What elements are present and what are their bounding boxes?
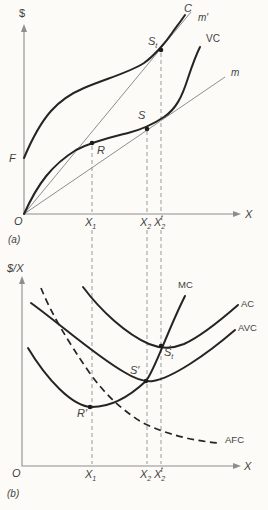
- curve-vc-label: VC: [206, 33, 220, 44]
- point-r-label: R: [97, 144, 105, 156]
- point-s-dot: [145, 127, 150, 132]
- cost-curves-figure: $ C m′ VC m St S R F O X X1 X2 X2t (a): [0, 0, 268, 510]
- panel-b-label: (b): [7, 488, 19, 499]
- tick-x1-a: X1: [84, 216, 96, 230]
- curve-mc-label: MC: [178, 279, 193, 290]
- point-s-label: S: [138, 109, 146, 121]
- curve-total-cost: [24, 15, 185, 158]
- origin-label-a: O: [14, 215, 23, 227]
- point-st-label: St: [148, 35, 158, 49]
- tick-x2t-a: X2t: [153, 214, 165, 230]
- point-st-prime-dot: [159, 344, 164, 349]
- y-axis-arrow-a: [21, 24, 27, 32]
- ray-m-label: m: [231, 67, 239, 78]
- tick-x2t-b: X2t: [153, 466, 165, 482]
- curve-c-label: C: [184, 2, 192, 14]
- y-axis-label-a: $: [19, 7, 25, 19]
- point-st-dot: [159, 48, 164, 53]
- x-axis-label-b: X: [243, 460, 252, 472]
- panel-a-label: (a): [8, 234, 20, 245]
- x-axis-arrow-b: [233, 463, 241, 469]
- point-r-dot: [90, 141, 95, 146]
- ray-m: [24, 77, 225, 214]
- curve-variable-cost: [24, 47, 200, 214]
- ray-m-prime-label: m′: [198, 12, 209, 23]
- axes-a: [24, 30, 234, 214]
- y-axis-label-b: $/X: [6, 262, 24, 274]
- x-axis-arrow-a: [233, 211, 241, 217]
- quantity-guide-lines: [92, 53, 161, 464]
- panel-a: $ C m′ VC m St S R F O X X1 X2 X2t (a): [8, 2, 253, 245]
- point-r-prime-label: R′: [77, 407, 88, 419]
- curve-afc-label: AFC: [225, 434, 244, 445]
- tick-x2-b: X2: [139, 468, 151, 482]
- tick-x1-b: X1: [84, 468, 96, 482]
- point-s-prime-label: S′: [130, 364, 140, 376]
- tick-x2-a: X2: [139, 216, 151, 230]
- figure-canvas: $ C m′ VC m St S R F O X X1 X2 X2t (a): [0, 0, 268, 510]
- x-axis-label-a: X: [244, 208, 253, 220]
- point-s-prime-dot: [144, 379, 149, 384]
- origin-label-b: O: [12, 467, 21, 479]
- point-r-prime-dot: [88, 405, 93, 410]
- panel-b: $/X MC AC AVC AFC St′ S′ R′ O X X1 X2 X2…: [6, 262, 257, 499]
- y-axis-arrow-b: [19, 276, 25, 284]
- intercept-f-label: F: [9, 152, 17, 164]
- curve-avc-label: AVC: [238, 322, 257, 333]
- curve-ac-label: AC: [241, 298, 254, 309]
